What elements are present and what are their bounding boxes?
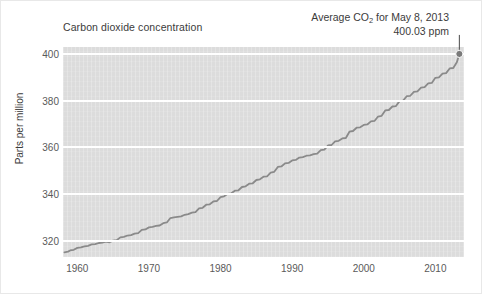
y-tick-label: 320 (15, 235, 59, 246)
data-line (64, 54, 459, 252)
y-tick-label: 340 (15, 189, 59, 200)
annotation-callout: Average CO2 for May 8, 2013 400.03 ppm (311, 11, 449, 38)
co2-chart-figure: Carbon dioxide concentration Average CO2… (0, 0, 482, 294)
y-tick-label: 400 (15, 49, 59, 60)
annotation-line-1: Average CO2 for May 8, 2013 (311, 11, 449, 25)
x-tick-label: 2010 (405, 263, 465, 274)
y-tick-label: 380 (15, 95, 59, 106)
y-axis: 320340360380400 (1, 47, 59, 257)
gridline-y (63, 146, 464, 148)
x-tick-label: 1970 (119, 263, 179, 274)
gridline-y (63, 193, 464, 195)
data-line-svg (63, 47, 464, 257)
x-axis: 196019701980199020002010 (63, 263, 464, 277)
gridline-y (63, 240, 464, 242)
page-title: Carbon dioxide concentration (63, 21, 202, 33)
y-tick-label: 360 (15, 142, 59, 153)
x-tick-label: 1960 (47, 263, 107, 274)
annotation-line-1-pre: Average CO (311, 11, 369, 23)
gridline-y (63, 53, 464, 55)
plot-area (63, 47, 464, 257)
x-tick-label: 1990 (262, 263, 322, 274)
annotation-line-2: 400.03 ppm (311, 25, 449, 38)
annotation-subscript-2: 2 (369, 16, 373, 25)
gridline-y (63, 100, 464, 102)
annotation-line-1-post: for May 8, 2013 (373, 11, 449, 23)
x-tick-label: 1980 (191, 263, 251, 274)
x-tick-label: 2000 (334, 263, 394, 274)
